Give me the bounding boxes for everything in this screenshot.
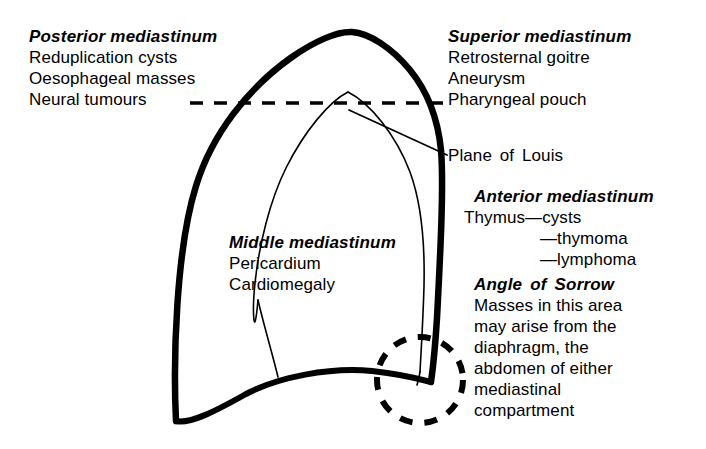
label-plane-of-louis: Plane of Louis xyxy=(448,145,563,166)
diagram-page: Posterior mediastinum Reduplication cyst… xyxy=(0,0,706,449)
label-superior-mediastinum: Superior mediastinum Retrosternal goitre… xyxy=(448,26,631,110)
angle-of-sorrow-item-1: may arise from the xyxy=(474,316,622,337)
angle-of-sorrow-item-5: compartment xyxy=(474,400,622,421)
middle-item-0: Pericardium xyxy=(229,253,396,274)
angle-of-sorrow-item-0: Masses in this area xyxy=(474,295,622,316)
label-angle-of-sorrow: Angle of Sorrow Masses in this area may … xyxy=(474,274,622,421)
diaphragm-outline xyxy=(176,370,431,421)
angle-of-sorrow-item-3: abdomen of either xyxy=(474,358,622,379)
middle-heading: Middle mediastinum xyxy=(229,232,396,253)
superior-item-2: Pharyngeal pouch xyxy=(448,89,631,110)
plane-of-louis-text: Plane of Louis xyxy=(448,145,563,166)
superior-item-1: Aneurysm xyxy=(448,68,631,89)
superior-heading: Superior mediastinum xyxy=(448,26,631,47)
angle-of-sorrow-item-2: diaphragm, the xyxy=(474,337,622,358)
anterior-heading: Anterior mediastinum xyxy=(464,186,654,207)
posterior-item-0: Reduplication cysts xyxy=(29,47,217,68)
posterior-item-2: Neural tumours xyxy=(29,89,217,110)
label-anterior-mediastinum: Anterior mediastinum Thymus—cysts —thymo… xyxy=(464,186,654,270)
posterior-heading: Posterior mediastinum xyxy=(29,26,217,47)
anterior-item-1: —thymoma xyxy=(464,228,654,249)
anterior-item-0: Thymus—cysts xyxy=(464,207,654,228)
posterior-item-1: Oesophageal masses xyxy=(29,68,217,89)
anterior-item-2: —lymphoma xyxy=(464,249,654,270)
cardiomegaly-leader xyxy=(258,300,278,377)
middle-item-1: Cardiomegaly xyxy=(229,274,396,295)
angle-of-sorrow-heading: Angle of Sorrow xyxy=(474,274,622,295)
angle-of-sorrow-item-4: mediastinal xyxy=(474,379,622,400)
label-middle-mediastinum: Middle mediastinum Pericardium Cardiomeg… xyxy=(229,232,396,295)
label-posterior-mediastinum: Posterior mediastinum Reduplication cyst… xyxy=(29,26,217,110)
superior-item-0: Retrosternal goitre xyxy=(448,47,631,68)
